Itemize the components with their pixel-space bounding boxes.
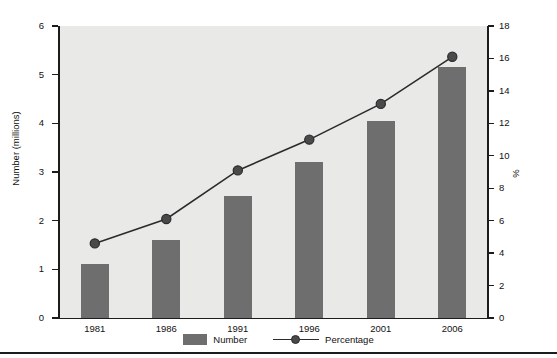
x-axis-label-2001: 2001 (351, 323, 411, 334)
legend-label-number: Number (213, 334, 247, 345)
percentage-polyline (95, 57, 453, 244)
x-axis-label-1996: 1996 (279, 323, 339, 334)
marker-2006 (448, 52, 457, 61)
x-axis-label-1991: 1991 (208, 323, 268, 334)
marker-1996 (305, 135, 314, 144)
footer-divider (0, 352, 557, 354)
marker-1981 (90, 239, 99, 248)
marker-1986 (162, 214, 171, 223)
legend-label-percentage: Percentage (325, 334, 374, 345)
line-series-percentage (0, 0, 557, 358)
x-axis-label-1981: 1981 (65, 323, 125, 334)
legend-line-marker-icon (273, 335, 319, 345)
chart-legend: Number Percentage (0, 334, 557, 345)
percentage-markers (90, 52, 457, 248)
x-axis-label-1986: 1986 (136, 323, 196, 334)
marker-2001 (376, 99, 385, 108)
chart-canvas: 0123456 024681012141618 Number (millions… (0, 0, 557, 358)
legend-bar-swatch-icon (183, 334, 207, 345)
legend-item-percentage: Percentage (273, 334, 374, 345)
marker-1991 (233, 166, 242, 175)
legend-item-number: Number (183, 334, 247, 345)
x-axis-label-2006: 2006 (422, 323, 482, 334)
